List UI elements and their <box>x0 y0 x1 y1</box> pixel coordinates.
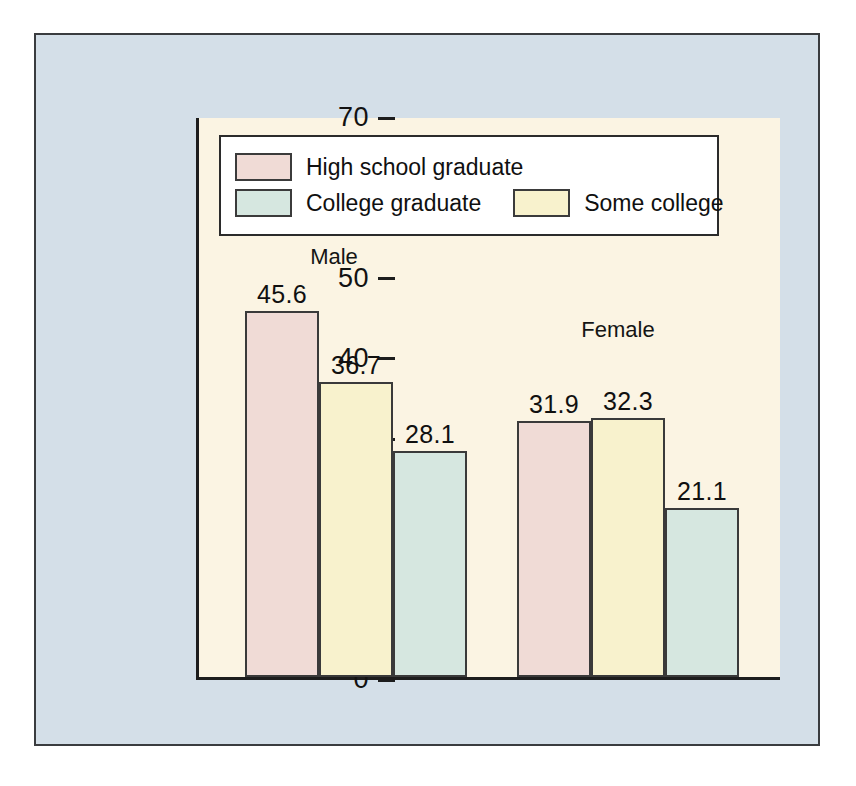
bar <box>319 382 393 677</box>
y-axis-tick-mark <box>378 277 395 280</box>
bar-value-label: 45.6 <box>257 280 307 309</box>
bar <box>245 311 319 677</box>
y-axis-tick-mark <box>378 679 395 682</box>
legend-row-college-and-some-college: College graduate Some college <box>235 185 703 221</box>
legend-row-high-school: High school graduate <box>235 149 703 185</box>
bar <box>517 421 591 677</box>
bar <box>665 508 739 677</box>
y-axis-tick-mark <box>378 117 395 120</box>
legend-swatch-some-college <box>513 189 570 217</box>
legend-label-high-school-graduate: High school graduate <box>306 154 523 181</box>
bar <box>591 418 665 677</box>
legend-swatch-college-graduate <box>235 189 292 217</box>
legend-label-some-college: Some college <box>584 190 723 217</box>
chart-legend: High school graduate College graduate So… <box>219 135 719 236</box>
bar-value-label: 36.7 <box>331 351 381 380</box>
plot-area: Smokers (%) 010203040506070 High school … <box>196 118 780 680</box>
group-label-female: Female <box>581 317 654 343</box>
bar <box>393 451 467 677</box>
bar-value-label: 31.9 <box>529 390 579 419</box>
legend-label-college-graduate: College graduate <box>306 190 481 217</box>
legend-swatch-high-school-graduate <box>235 153 292 181</box>
bar-value-label: 32.3 <box>603 387 653 416</box>
y-axis-tick-label: 70 <box>338 102 369 133</box>
bar-value-label: 21.1 <box>677 477 727 506</box>
group-label-male: Male <box>310 244 358 270</box>
bar-value-label: 28.1 <box>405 420 455 449</box>
